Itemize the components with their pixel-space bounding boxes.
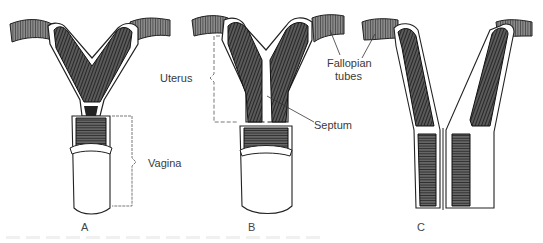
panel-a-drawing [10,18,170,214]
panel-label-c: C [417,221,425,233]
vagina-label: Vagina [148,157,181,169]
fallopian-label-line1: Fallopian [327,57,372,69]
panel-a-left-tube [10,20,52,43]
panel-label-a: A [81,221,88,233]
septum-label: Septum [314,119,352,131]
cropped-caption-remnant [6,236,326,239]
anatomy-diagram: Uterus Vagina Septum Fallopian tubes A B… [0,0,543,243]
panel-c-drawing [362,19,532,210]
panel-label-b: B [248,221,255,233]
fallopian-label-line2: tubes [335,70,362,82]
panel-a-uterine-cavity [54,27,132,102]
panel-c-left-tube [362,19,398,40]
panel-b-right-tube [312,15,344,42]
panel-b-left-horn [228,23,262,122]
uterus-label: Uterus [160,72,192,84]
panel-c-right-vagina [452,134,470,206]
vagina-bracket [112,116,136,206]
panel-b-drawing [192,15,344,214]
panel-c-left-vagina [418,134,436,206]
